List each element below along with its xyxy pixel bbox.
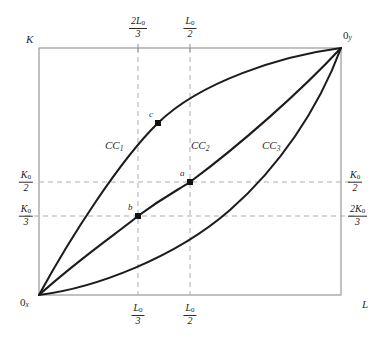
tick-label-right-k0-over-2: K0 2 (348, 170, 362, 195)
curve-label-cc3-text: CC (262, 139, 277, 151)
fraction-denominator: 2 (183, 29, 196, 40)
fraction-numerator: K0 (348, 170, 362, 183)
tick-label-left-k0-over-2: K0 2 (19, 170, 33, 195)
curve-label-cc1-text: CC (105, 139, 120, 151)
fraction-denominator: 3 (348, 216, 367, 227)
fraction-numerator-text: K (21, 203, 28, 214)
origin-x-label: 0x (20, 297, 29, 309)
fraction-l0-2-top: L0 2 (183, 16, 196, 39)
tick-label-top-2l0-over-3: 2L0 3 (129, 16, 147, 41)
fraction-numerator-text: K (21, 169, 28, 180)
fraction-numerator-sub: 0 (28, 207, 32, 215)
fraction-numerator: K0 (19, 204, 33, 217)
fraction-denominator: 3 (129, 29, 147, 40)
fraction-numerator-text: 2L (131, 15, 142, 26)
fraction-numerator-text: K (350, 169, 357, 180)
fraction-numerator-sub: 0 (362, 207, 366, 215)
tick-label-left-k0-over-3: K0 3 (19, 204, 33, 229)
curve-label-cc2-text: CC (191, 139, 206, 151)
point-marker-c (155, 120, 161, 126)
curve-label-cc2-sub: 2 (206, 144, 210, 153)
curve-label-cc1: CC1 (105, 140, 123, 152)
fraction-numerator: 2L0 (129, 16, 147, 29)
fraction-numerator-sub: 0 (357, 173, 361, 181)
point-marker-a (187, 179, 193, 185)
origin-y-subscript: y (349, 33, 352, 42)
fraction-2l0-3: 2L0 3 (129, 16, 147, 39)
fraction-numerator-text: 2K (350, 203, 362, 214)
fraction-k0-2-right: K0 2 (348, 170, 362, 193)
tick-label-bottom-l0-over-2: L0 2 (183, 303, 196, 328)
curve-label-cc1-sub: 1 (120, 144, 124, 153)
fraction-numerator: 2K0 (348, 204, 367, 217)
origin-y-label: 0y (343, 30, 352, 42)
origin-x-subscript: x (26, 300, 29, 309)
tick-label-top-l0-over-2: L0 2 (183, 16, 196, 41)
fraction-denominator: 2 (183, 316, 196, 327)
curve-label-cc2: CC2 (191, 140, 209, 152)
fraction-numerator: L0 (183, 16, 196, 29)
fraction-denominator: 2 (348, 182, 362, 193)
fraction-numerator: L0 (183, 303, 196, 316)
fraction-k0-3-left: K0 3 (19, 204, 33, 227)
fraction-l0-2-bottom: L0 2 (183, 303, 196, 326)
fraction-denominator: 2 (19, 182, 33, 193)
fraction-numerator-sub: 0 (139, 306, 143, 314)
fraction-k0-2-left: K0 2 (19, 170, 33, 193)
fraction-numerator: L0 (131, 303, 144, 316)
fraction-2k0-3-right: 2K0 3 (348, 204, 367, 227)
curve-label-cc3-sub: 3 (277, 144, 281, 153)
axis-label-k: K (26, 34, 33, 45)
curve-label-cc3: CC3 (262, 140, 280, 152)
point-label-b: b (128, 203, 133, 212)
point-label-c: c (149, 110, 153, 119)
axis-label-l: L (362, 299, 368, 310)
edgeworth-box-figure: K L 0y 0x 2L0 3 L0 2 L0 3 L0 2 K0 2 (0, 0, 382, 345)
tick-label-right-2k0-over-3: 2K0 3 (348, 204, 367, 229)
fraction-numerator: K0 (19, 170, 33, 183)
point-marker-b (135, 213, 141, 219)
point-label-a: a (180, 169, 185, 178)
fraction-numerator-sub: 0 (28, 173, 32, 181)
fraction-numerator-sub: 0 (191, 19, 195, 27)
fraction-numerator-sub: 0 (142, 19, 146, 27)
fraction-denominator: 3 (19, 216, 33, 227)
tick-label-bottom-l0-over-3: L0 3 (131, 303, 144, 328)
fraction-numerator-sub: 0 (191, 306, 195, 314)
fraction-denominator: 3 (131, 316, 144, 327)
fraction-l0-3: L0 3 (131, 303, 144, 326)
contract-curve-plot (0, 0, 382, 345)
